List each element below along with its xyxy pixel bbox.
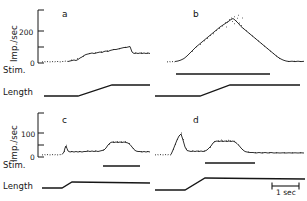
trace-panel-d (155, 134, 304, 155)
length-trace-panel-b (155, 85, 300, 96)
figure-panel-container: Imp./sec 200 0 Stim. Length a b Imp./sec… (0, 0, 307, 201)
y-axis-bottom (38, 113, 44, 157)
trace-noise-panel-b (192, 15, 301, 62)
trace-panel-a (42, 47, 150, 63)
length-trace-panel-a (44, 85, 150, 96)
length-trace-panel-c (42, 182, 150, 188)
figure-vector-layer (0, 0, 307, 201)
trace-panel-b (167, 19, 304, 63)
length-trace-panel-d (155, 178, 305, 190)
y-axis-top (38, 10, 44, 63)
scale-bar (272, 183, 299, 190)
trace-noise-panel-a (71, 47, 148, 61)
